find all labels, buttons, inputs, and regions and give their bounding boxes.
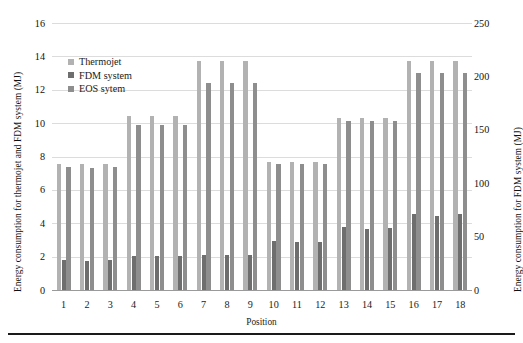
y-tick-label-right: 50	[474, 231, 500, 242]
y-tick-label-left: 16	[23, 18, 45, 29]
y-tick-label-right: 150	[474, 124, 500, 135]
bar	[365, 229, 369, 290]
bar-group	[215, 23, 238, 290]
bar	[272, 241, 276, 290]
y-tick-label-left: 12	[23, 84, 45, 95]
bar	[295, 242, 299, 290]
x-tick-label: 8	[215, 299, 239, 310]
bar	[412, 214, 416, 290]
bar	[318, 242, 322, 290]
bar	[248, 255, 252, 290]
x-axis-title: Position	[0, 317, 523, 327]
legend-swatch-icon	[68, 59, 74, 65]
y-tick-label-left: 2	[23, 251, 45, 262]
legend-item: Thermojet	[68, 55, 132, 69]
bar	[267, 162, 271, 290]
x-tick-label: 13	[332, 299, 356, 310]
bar	[206, 83, 210, 290]
bar	[66, 167, 70, 290]
bar	[178, 256, 182, 290]
bar-group	[169, 23, 192, 290]
bar	[220, 61, 224, 290]
y-tick-label-left: 8	[23, 151, 45, 162]
bar	[383, 118, 387, 290]
bar	[407, 61, 411, 290]
x-tick-label: 9	[238, 299, 262, 310]
bar	[113, 167, 117, 290]
bar	[127, 116, 131, 290]
y-tick-label-right: 100	[474, 178, 500, 189]
bar-group	[355, 23, 378, 290]
y-tick-label-right: 0	[474, 285, 500, 296]
y-tick-label-left: 10	[23, 118, 45, 129]
x-tick-label: 2	[75, 299, 99, 310]
x-tick-label: 17	[425, 299, 449, 310]
bottom-rule	[8, 333, 515, 335]
y-tick-label-left: 14	[23, 51, 45, 62]
bar	[155, 256, 159, 290]
bar	[243, 61, 247, 290]
legend-item: EOS sytem	[68, 82, 132, 96]
bar	[458, 214, 462, 290]
bar	[197, 61, 201, 290]
y-tick-label-left: 0	[23, 285, 45, 296]
x-tick-label: 18	[448, 299, 472, 310]
x-tick-label: 4	[122, 299, 146, 310]
bar	[183, 125, 187, 290]
bar	[416, 73, 420, 290]
bar	[90, 168, 94, 290]
bar	[230, 83, 234, 290]
bar	[62, 260, 66, 290]
legend-swatch-icon	[68, 72, 74, 78]
bar-group	[379, 23, 402, 290]
legend-label: Thermojet	[79, 55, 121, 69]
bar	[57, 164, 61, 290]
legend-label: EOS sytem	[79, 82, 125, 96]
bar-group	[285, 23, 308, 290]
bar	[346, 121, 350, 290]
bar	[85, 261, 89, 290]
chart-legend: ThermojetFDM systemEOS sytem	[68, 55, 132, 96]
y-axis-title-right: Energy consumption for FDM system (MJ)	[513, 127, 523, 292]
bar	[225, 255, 229, 290]
bar	[150, 116, 154, 290]
legend-label: FDM system	[79, 69, 132, 83]
x-tick-label: 1	[52, 299, 76, 310]
x-tick-label: 15	[378, 299, 402, 310]
bar	[342, 227, 346, 290]
bar	[160, 125, 164, 290]
y-axis-title-left: Energy consumption for thermojet and FDM…	[13, 72, 23, 292]
chart-figure: Energy consumption for thermojet and FDM…	[0, 0, 523, 343]
x-tick-label: 5	[145, 299, 169, 310]
bar	[290, 162, 294, 290]
x-tick-label: 14	[355, 299, 379, 310]
bar	[136, 125, 140, 290]
bar	[430, 61, 434, 290]
bar	[463, 73, 467, 290]
y-axis-right: 050100150200250	[474, 0, 500, 343]
bar	[435, 216, 439, 290]
legend-swatch-icon	[68, 86, 74, 92]
bar	[388, 228, 392, 290]
bar-group	[332, 23, 355, 290]
bar	[108, 260, 112, 290]
bar	[80, 164, 84, 290]
bar	[276, 164, 280, 290]
bar	[103, 164, 107, 290]
bar	[202, 255, 206, 290]
bar-group	[449, 23, 472, 290]
bar-group	[192, 23, 215, 290]
bar	[253, 83, 257, 290]
y-axis-left: 0246810121416	[23, 0, 45, 343]
x-tick-label: 10	[262, 299, 286, 310]
bar-group	[309, 23, 332, 290]
y-tick-label-left: 4	[23, 218, 45, 229]
legend-item: FDM system	[68, 69, 132, 83]
bar	[337, 118, 341, 290]
bar	[132, 256, 136, 290]
bar	[300, 164, 304, 290]
y-tick-label-left: 6	[23, 184, 45, 195]
bar	[370, 121, 374, 290]
bar	[453, 61, 457, 290]
x-axis-line	[52, 290, 472, 291]
